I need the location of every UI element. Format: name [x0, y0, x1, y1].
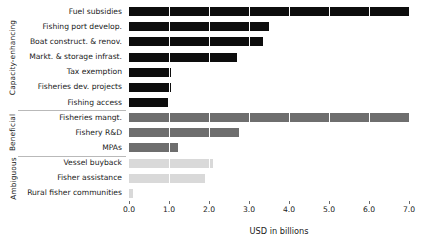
category-label: Fishing port develop. [43, 20, 122, 34]
x-tick [209, 201, 210, 204]
group-label-text: Capacity-enhancing [9, 19, 18, 94]
group-label-text: Beneficial [9, 114, 18, 151]
x-axis-title: USD in billions [129, 226, 429, 236]
x-axis: 0.01.02.03.04.05.06.07.0 [129, 201, 429, 227]
category-axis-labels: Fuel subsidiesFishing port develop.Boat … [22, 0, 126, 205]
plot-area [129, 4, 429, 201]
x-tick-label: 2.0 [203, 205, 215, 214]
bar [129, 68, 171, 77]
category-label: Tax exemption [67, 65, 122, 79]
x-tick-label: 1.0 [163, 205, 175, 214]
x-tick-label: 5.0 [323, 205, 335, 214]
category-label: Fisheries mangt. [59, 111, 122, 125]
group-separator [18, 156, 126, 157]
x-tick-label: 4.0 [283, 205, 295, 214]
category-label: Fisher assistance [57, 171, 122, 185]
x-tick [329, 201, 330, 204]
gridline [249, 4, 250, 201]
x-tick [369, 201, 370, 204]
gridline [289, 4, 290, 201]
gridline [169, 4, 170, 201]
category-label: Boat construct. & renov. [30, 35, 122, 49]
category-label: Fisheries dev. projects [38, 80, 122, 94]
bar [129, 159, 213, 168]
x-tick [249, 201, 250, 204]
bar [129, 143, 178, 152]
x-tick [409, 201, 410, 204]
bar [129, 174, 205, 183]
category-label: Fishery R&D [76, 126, 122, 140]
x-tick [129, 201, 130, 204]
bar [129, 128, 239, 137]
group-label-text: Ambiguous [9, 157, 18, 199]
bar [129, 37, 263, 46]
group-separator [18, 110, 126, 111]
x-tick-label: 6.0 [363, 205, 375, 214]
gridline [329, 4, 330, 201]
x-tick [289, 201, 290, 204]
x-tick-label: 0.0 [123, 205, 135, 214]
bar [129, 98, 168, 107]
bar [129, 189, 133, 198]
gridline [409, 4, 410, 201]
bar-chart-figure: Capacity-enhancingBeneficialAmbiguous Fu… [0, 0, 436, 249]
x-tick-label: 7.0 [403, 205, 415, 214]
category-label: Fuel subsidies [69, 5, 122, 19]
gridline [209, 4, 210, 201]
x-tick-label: 3.0 [243, 205, 255, 214]
gridline [369, 4, 370, 201]
bar [129, 53, 237, 62]
category-label: Vessel buyback [63, 156, 122, 170]
bar [129, 83, 171, 92]
x-tick [169, 201, 170, 204]
category-label: MPAs [102, 141, 122, 155]
bar [129, 113, 409, 122]
bar [129, 22, 269, 31]
bar [129, 7, 409, 16]
category-label: Fishing access [68, 96, 122, 110]
category-label: Markt. & storage infrast. [29, 50, 122, 64]
category-label: Rural fisher communities [27, 186, 122, 200]
